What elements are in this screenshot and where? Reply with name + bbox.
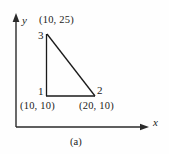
figure-container: y x 3 1 2 (10, 25) (10, 10) (20, 10) (a) xyxy=(0,0,169,154)
node-1-number: 1 xyxy=(38,86,44,97)
node-3-number: 3 xyxy=(38,30,44,41)
node-2-coordinate-label: (20, 10) xyxy=(79,101,114,112)
x-axis-label: x xyxy=(153,117,158,128)
x-axis-arrowhead xyxy=(140,124,149,131)
node-3-coordinate-label: (10, 25) xyxy=(39,15,74,26)
triangle-edge-3-2 xyxy=(47,34,95,96)
y-axis-label: y xyxy=(22,15,27,26)
figure-caption: (a) xyxy=(70,137,82,148)
node-2-number: 2 xyxy=(97,85,103,96)
y-axis-arrowhead xyxy=(13,13,20,22)
node-1-coordinate-label: (10, 10) xyxy=(20,101,55,112)
